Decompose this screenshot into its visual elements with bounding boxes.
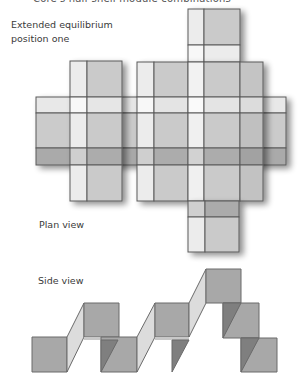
- plan-column-group-2: [137, 62, 263, 201]
- side-square-4: [155, 303, 189, 337]
- side-fold-3: [189, 269, 206, 337]
- plan-tall-column-bottom: [188, 201, 239, 252]
- side-square-5: [206, 269, 241, 303]
- plan-tall-column: [188, 9, 240, 62]
- side-square-2: [84, 303, 119, 337]
- side-fold-2: [137, 303, 155, 372]
- module-diagram: [0, 0, 303, 391]
- plan-view: [36, 9, 286, 252]
- side-square-1: [32, 337, 67, 372]
- side-fold-1: [67, 303, 84, 372]
- side-view: [32, 269, 277, 372]
- plan-column-1: [70, 61, 122, 201]
